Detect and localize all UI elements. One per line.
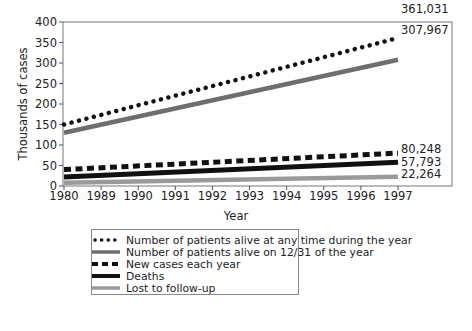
- x-tick-label: 1993: [235, 189, 264, 203]
- x-tick-label: 1997: [383, 189, 412, 203]
- series-end-label: 22,264: [401, 167, 441, 181]
- y-tick-label: 350: [35, 36, 57, 50]
- y-tick-label: 100: [35, 138, 57, 152]
- chart-legend: Number of patients alive at any time dur…: [91, 229, 299, 295]
- legend-label: Lost to follow-up: [126, 282, 215, 295]
- x-axis-label: Year: [223, 209, 249, 223]
- plot-area: 0501001502002503003504001980198919901991…: [16, 2, 452, 223]
- series-line: [64, 60, 398, 133]
- y-tick-label: 150: [35, 118, 57, 132]
- y-tick-label: 300: [35, 56, 57, 70]
- series-line: [64, 38, 398, 125]
- y-tick-label: 50: [42, 159, 57, 173]
- x-tick-label: 1996: [346, 189, 375, 203]
- x-tick-label: 1991: [161, 189, 190, 203]
- series-end-label: 80,248: [401, 142, 441, 156]
- x-tick-label: 1992: [198, 189, 227, 203]
- x-tick-label: 1994: [272, 189, 301, 203]
- x-tick-label: 1989: [86, 189, 115, 203]
- y-axis-label: Thousands of cases: [16, 47, 30, 161]
- y-tick-label: 250: [35, 77, 57, 91]
- series-line: [64, 177, 398, 183]
- y-tick-label: 200: [35, 97, 57, 111]
- series-end-label: 307,967: [401, 23, 449, 37]
- series-line: [64, 162, 398, 177]
- light-gray-line-swatch-icon: [92, 281, 122, 295]
- x-tick-label: 1990: [124, 189, 153, 203]
- legend-item-lost-follow-up: Lost to follow-up: [92, 281, 215, 295]
- series-line: [64, 153, 398, 170]
- series-end-label: 361,031: [401, 2, 449, 16]
- x-tick-label: 1980: [49, 189, 78, 203]
- x-tick-label: 1995: [309, 189, 338, 203]
- y-tick-label: 400: [35, 15, 57, 29]
